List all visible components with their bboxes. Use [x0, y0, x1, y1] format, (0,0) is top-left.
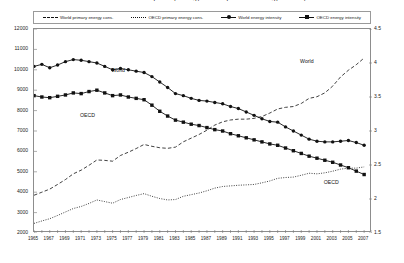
legend-label: OECD primary energy cons.: [148, 15, 203, 20]
series-label: OECD: [324, 179, 339, 185]
y-tick-label: 12000: [0, 25, 28, 31]
chart-legend: World primary energy cons. OECD primary …: [33, 11, 371, 24]
legend-label: World energy intensity: [238, 15, 281, 20]
series-label: World: [111, 67, 124, 73]
dashed-line-icon: [43, 15, 58, 21]
legend-item-oecd-primary-energy-cons: OECD primary energy cons.: [131, 15, 203, 21]
series-label: World: [300, 58, 313, 64]
chart-figure: World and OECD primary energy consumptio…: [0, 0, 404, 263]
dotted-line-icon: [131, 15, 146, 21]
legend-label: OECD energy intensity: [316, 15, 361, 20]
plot-area: [33, 28, 371, 232]
y2-tick-label: 1.5: [374, 229, 394, 235]
x-tick-label: 2007: [352, 236, 374, 241]
y2-tick-label: 3: [374, 127, 394, 133]
y2-tick-label: 2.5: [374, 161, 394, 167]
y-tick-label: 11000: [0, 45, 28, 51]
y-tick-label: 9000: [0, 86, 28, 92]
legend-item-world-energy-intensity: World energy intensity: [221, 15, 281, 21]
chart-canvas: [34, 29, 372, 233]
y-tick-label: 7000: [0, 127, 28, 133]
y-tick-label: 10000: [0, 66, 28, 72]
y-tick-label: 2000: [0, 229, 28, 235]
legend-item-oecd-energy-intensity: OECD energy intensity: [299, 15, 361, 21]
legend-label: World primary energy cons.: [60, 15, 114, 20]
y-tick-label: 4000: [0, 188, 28, 194]
circle-marker-line-icon: [221, 15, 236, 21]
y2-tick-label: 2: [374, 195, 394, 201]
legend-item-world-primary-energy-cons: World primary energy cons.: [43, 15, 114, 21]
chart-title: World and OECD primary energy consumptio…: [0, 0, 404, 1]
y-tick-label: 6000: [0, 147, 28, 153]
y2-tick-label: 4: [374, 59, 394, 65]
y-tick-label: 5000: [0, 168, 28, 174]
series-label: OECD: [80, 112, 95, 118]
y2-tick-label: 4.5: [374, 25, 394, 31]
y2-tick-label: 3.5: [374, 93, 394, 99]
y-tick-label: 8000: [0, 107, 28, 113]
square-marker-line-icon: [299, 15, 314, 21]
y-tick-label: 3000: [0, 209, 28, 215]
